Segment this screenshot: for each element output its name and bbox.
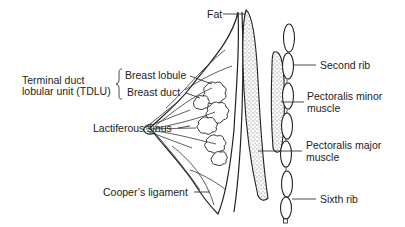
label-breast-lobule: Breast lobule [125,69,186,81]
breast-anatomy-diagram: Fat Second rib Pectoralis minor muscle P… [0,0,405,227]
label-pectoralis-major-1: Pectoralis major [306,139,382,151]
label-fat: Fat [207,8,222,20]
label-sixth-rib: Sixth rib [320,193,358,205]
pectoralis-major [243,10,268,200]
label-second-rib: Second rib [320,59,370,71]
label-pectoralis-minor-1: Pectoralis minor [307,90,383,102]
rib-cage [281,24,295,223]
label-breast-duct: Breast duct [127,86,180,98]
label-coopers-ligament: Cooper’s ligament [103,186,188,198]
label-pectoralis-minor-2: muscle [307,102,340,114]
tdlu-brace [116,69,122,99]
label-tdlu-2: lobular unit (TDLU) [22,85,111,97]
label-lactiferous-sinus: Lactiferous sinus [93,122,172,134]
label-pectoralis-major-2: muscle [306,151,339,163]
